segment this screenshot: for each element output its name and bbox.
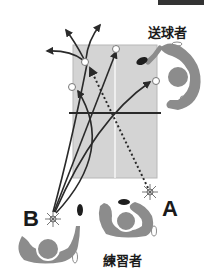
paddle-icon [77, 204, 83, 216]
position-a-label: A [162, 196, 178, 222]
impact-burst-b [45, 211, 61, 227]
paddle-icon [118, 199, 130, 205]
player-a-figure [99, 199, 157, 238]
practicer-label: 練習者 [103, 250, 142, 269]
impact-burst-a [142, 184, 158, 200]
table-tennis-drill-diagram [0, 0, 210, 279]
server-label: 送球者 [148, 22, 187, 41]
position-b-label: B [23, 206, 39, 232]
